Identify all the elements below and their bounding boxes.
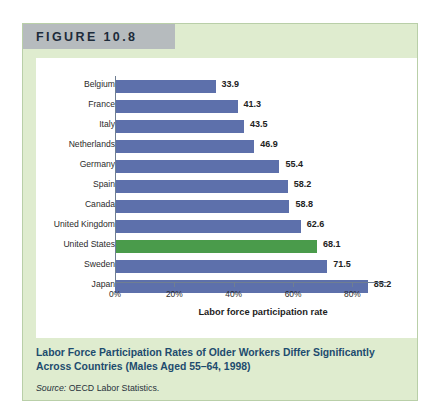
bar-fill xyxy=(115,220,301,233)
bar-category-label: Spain xyxy=(0,179,115,189)
bar-fill-highlighted xyxy=(115,240,317,253)
source-text: OECD Labor Statistics. xyxy=(69,383,159,393)
x-axis-tick xyxy=(293,282,294,287)
x-axis-tick-label: 20% xyxy=(166,289,183,299)
bar-row: Netherlands46.9 xyxy=(36,136,417,156)
source-prefix: Source: xyxy=(36,383,66,393)
x-axis-tick xyxy=(234,282,235,287)
bar-category-label: United States xyxy=(0,239,115,249)
bar-row: Belgium33.9 xyxy=(36,76,417,96)
x-axis-tick xyxy=(174,282,175,287)
x-axis-tick xyxy=(115,282,116,287)
bar-track xyxy=(115,200,289,213)
bar-value-label: 85.2 xyxy=(374,279,392,289)
bar-fill xyxy=(115,200,289,213)
x-axis-title: Labor force participation rate xyxy=(115,307,411,317)
bar-track xyxy=(115,160,279,173)
bar-fill xyxy=(115,120,244,133)
bar-category-label: France xyxy=(0,99,115,109)
bar-category-label: Sweden xyxy=(0,259,115,269)
y-axis-line xyxy=(115,76,116,282)
x-axis-tick-label: 0% xyxy=(109,289,121,299)
bar-track xyxy=(115,80,216,93)
bar-row: France41.3 xyxy=(36,96,417,116)
figure-source-line: Source: OECD Labor Statistics. xyxy=(36,383,408,393)
bar-track xyxy=(115,220,301,233)
bar-value-label: 55.4 xyxy=(285,159,303,169)
bar-track xyxy=(115,260,327,273)
bar-fill xyxy=(115,180,288,193)
bar-value-label: 33.9 xyxy=(222,79,240,89)
bar-fill xyxy=(115,100,238,113)
bar-row: Italy43.5 xyxy=(36,116,417,136)
bar-category-label: Japan xyxy=(0,279,115,289)
bar-value-label: 68.1 xyxy=(323,239,341,249)
bar-fill xyxy=(115,260,327,273)
bar-fill xyxy=(115,140,254,153)
figure-number-label: FIGURE 10.8 xyxy=(23,30,137,44)
bar-row: United Kingdom62.6 xyxy=(36,216,417,236)
bar-category-label: Canada xyxy=(0,199,115,209)
bar-category-label: United Kingdom xyxy=(0,219,115,229)
x-axis-tick-label: 60% xyxy=(285,289,302,299)
bar-fill xyxy=(115,80,216,93)
bar-value-label: 43.5 xyxy=(250,119,268,129)
x-axis-tick-label: 40% xyxy=(225,289,242,299)
figure-caption-title: Labor Force Participation Rates of Older… xyxy=(36,346,408,374)
bar-value-label: 71.5 xyxy=(333,259,351,269)
bar-category-label: Netherlands xyxy=(0,139,115,149)
x-axis-tick-label: 80% xyxy=(344,289,361,299)
bar-value-label: 62.6 xyxy=(307,219,325,229)
bar-track xyxy=(115,120,244,133)
figure-panel: FIGURE 10.8 Belgium33.9France41.3Italy43… xyxy=(22,23,418,401)
bar-category-label: Germany xyxy=(0,159,115,169)
bar-row: Sweden71.5 xyxy=(36,256,417,276)
bar-chart-plot: Belgium33.9France41.3Italy43.5Netherland… xyxy=(36,58,417,338)
bar-row: United States68.1 xyxy=(36,236,417,256)
chart-card: Belgium33.9France41.3Italy43.5Netherland… xyxy=(36,58,417,338)
bar-row: Spain58.2 xyxy=(36,176,417,196)
bar-value-label: 58.8 xyxy=(295,199,313,209)
bar-category-label: Italy xyxy=(0,119,115,129)
figure-caption-block: Labor Force Participation Rates of Older… xyxy=(36,346,408,393)
bar-track xyxy=(115,240,317,253)
figure-number-banner: FIGURE 10.8 xyxy=(23,24,175,49)
bar-row: Germany55.4 xyxy=(36,156,417,176)
bar-category-label: Belgium xyxy=(0,79,115,89)
bar-value-label: 41.3 xyxy=(244,99,262,109)
bar-track xyxy=(115,140,254,153)
x-axis-line xyxy=(115,282,388,283)
bar-track xyxy=(115,100,238,113)
x-axis-tick xyxy=(352,282,353,287)
bar-fill xyxy=(115,160,279,173)
bar-value-label: 46.9 xyxy=(260,139,278,149)
bar-value-label: 58.2 xyxy=(294,179,312,189)
bar-track xyxy=(115,180,288,193)
bar-row: Canada58.8 xyxy=(36,196,417,216)
